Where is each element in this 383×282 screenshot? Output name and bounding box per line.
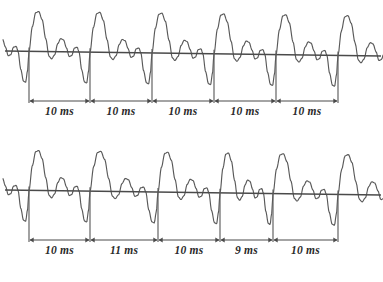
arrow-left-icon — [277, 98, 281, 103]
interval-dimension: 10 ms — [277, 98, 338, 117]
arrow-left-icon — [221, 237, 225, 242]
arrow-left-icon — [91, 98, 95, 103]
arrow-right-icon — [147, 98, 151, 103]
arrow-left-icon — [91, 237, 95, 242]
interval-dimension: 11 ms — [91, 237, 158, 256]
arrow-left-icon — [159, 237, 163, 242]
interval-dimension: 10 ms — [30, 98, 90, 117]
interval-label: 10 ms — [231, 105, 260, 117]
arrow-right-icon — [85, 237, 89, 242]
waveform-svg-regular: 10 ms10 ms10 ms10 ms10 ms — [0, 0, 383, 141]
interval-dimension: 10 ms — [274, 237, 338, 256]
arrow-left-icon — [30, 237, 34, 242]
waveform-svg-irregular: 10 ms11 ms10 ms9 ms10 ms — [0, 141, 383, 282]
interval-label: 10 ms — [175, 244, 204, 256]
arrow-left-icon — [215, 98, 219, 103]
interval-dimension: 10 ms — [153, 98, 214, 117]
interval-label: 10 ms — [291, 244, 320, 256]
baseline-axis — [5, 51, 381, 56]
interval-label: 10 ms — [45, 105, 74, 117]
interval-label: 9 ms — [235, 244, 258, 256]
waveform-trace — [3, 12, 383, 87]
waveform-panel-regular: 10 ms10 ms10 ms10 ms10 ms — [0, 0, 383, 141]
interval-dimension: 10 ms — [215, 98, 276, 117]
arrow-right-icon — [333, 98, 337, 103]
arrow-right-icon — [153, 237, 157, 242]
arrow-right-icon — [215, 237, 219, 242]
interval-dimension: 10 ms — [30, 237, 90, 256]
arrow-right-icon — [271, 98, 275, 103]
arrow-left-icon — [30, 98, 34, 103]
waveform-panel-irregular: 10 ms11 ms10 ms9 ms10 ms — [0, 141, 383, 282]
interval-label: 10 ms — [45, 244, 74, 256]
arrow-right-icon — [209, 98, 213, 103]
interval-dimension: 10 ms — [159, 237, 220, 256]
arrow-right-icon — [333, 237, 337, 242]
interval-label: 10 ms — [293, 105, 322, 117]
interval-dimension: 10 ms — [91, 98, 152, 117]
interval-label: 10 ms — [169, 105, 198, 117]
arrow-right-icon — [268, 237, 272, 242]
arrow-right-icon — [85, 98, 89, 103]
interval-dimension: 9 ms — [221, 237, 273, 256]
waveform-figure: 10 ms10 ms10 ms10 ms10 ms 10 ms11 ms10 m… — [0, 0, 383, 282]
arrow-left-icon — [153, 98, 157, 103]
arrow-left-icon — [274, 237, 278, 242]
waveform-trace — [3, 151, 383, 226]
interval-label: 10 ms — [107, 105, 136, 117]
interval-label: 11 ms — [110, 244, 138, 256]
